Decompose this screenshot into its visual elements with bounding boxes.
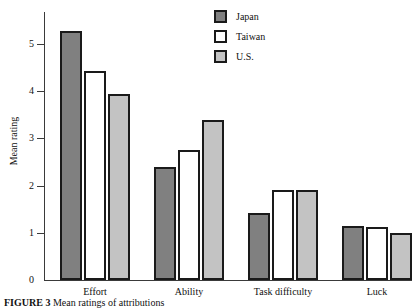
figure-container: 012345 Mean rating EffortAbilityTask dif… — [0, 0, 418, 308]
legend-item-label: Japan — [236, 11, 259, 22]
bar-us-effort — [108, 94, 130, 280]
bar-japan-effort — [60, 31, 82, 280]
bar-taiwan-task-difficulty — [272, 190, 294, 280]
x-axis-label-task-difficulty: Task difficulty — [233, 286, 333, 297]
figure-caption-label: FIGURE 3 — [4, 297, 50, 308]
bar-taiwan-ability — [178, 150, 200, 280]
bar-us-task-difficulty — [296, 190, 318, 280]
legend-swatch-icon — [214, 50, 227, 63]
chart-legend: JapanTaiwanU.S. — [214, 6, 334, 66]
legend-swatch-icon — [214, 10, 227, 23]
chart-plot-area: 012345 Mean rating EffortAbilityTask dif… — [0, 0, 418, 308]
legend-item-u-s-: U.S. — [214, 46, 334, 66]
legend-item-label: U.S. — [236, 51, 254, 62]
bar-taiwan-effort — [84, 71, 106, 280]
x-axis-label-effort: Effort — [45, 286, 145, 297]
bar-us-luck — [390, 233, 412, 280]
bar-japan-ability — [154, 167, 176, 280]
legend-item-label: Taiwan — [236, 31, 265, 42]
bar-japan-luck — [342, 226, 364, 280]
figure-caption: FIGURE 3 Mean ratings of attributions — [4, 297, 164, 308]
legend-item-japan: Japan — [214, 6, 334, 26]
legend-item-taiwan: Taiwan — [214, 26, 334, 46]
bar-japan-task-difficulty — [248, 213, 270, 280]
x-axis-label-ability: Ability — [139, 286, 239, 297]
figure-caption-text: Mean ratings of attributions — [53, 297, 164, 308]
bar-series-group — [0, 0, 418, 308]
legend-swatch-icon — [214, 30, 227, 43]
x-axis-label-luck: Luck — [327, 286, 418, 297]
bar-us-ability — [202, 120, 224, 280]
bar-taiwan-luck — [366, 227, 388, 280]
